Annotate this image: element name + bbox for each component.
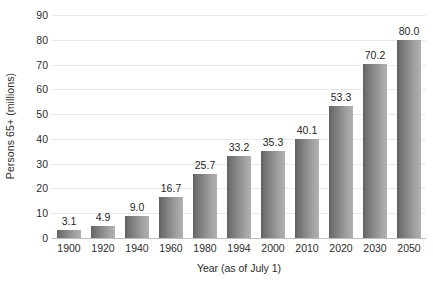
x-axis-tick-label: 2000 [261,242,284,255]
x-axis-tick-label: 2020 [329,242,352,255]
bar [91,226,115,238]
bar [363,64,387,238]
bar [193,174,217,238]
y-axis-tick-label: 50 [20,109,48,119]
y-axis-tick-labels: 0102030405060708090 [20,8,48,240]
x-axis-tick-label: 1900 [57,242,80,255]
y-axis-tick-label: 30 [20,159,48,169]
x-axis-tick-label: 2010 [295,242,318,255]
bar-value-label: 35.3 [263,137,283,148]
bar-group: 40.1 [290,15,324,238]
bar-value-label: 80.0 [399,26,419,37]
bar-group: 16.7 [154,15,188,238]
bar [125,216,149,238]
x-axis-tick-label: 1994 [227,242,250,255]
x-axis-tick-label: 2050 [397,242,420,255]
y-axis-tick-label: 60 [20,84,48,94]
y-axis-title: Persons 65+ (millions) [2,14,18,238]
y-axis-tick-label: 90 [20,10,48,20]
bar-group: 33.2 [222,15,256,238]
x-axis-tick-label: 1960 [159,242,182,255]
bar-value-label: 40.1 [297,125,317,136]
x-axis-tick-label: 1980 [193,242,216,255]
y-axis-tick-label: 70 [20,60,48,70]
bar [397,40,421,238]
plot-area: 3.14.99.016.725.733.235.340.153.370.280.… [52,15,426,238]
bar-value-label: 70.2 [365,50,385,61]
bar-value-label: 53.3 [331,92,351,103]
axis-baseline [52,238,426,239]
bar-value-label: 25.7 [195,160,215,171]
bar-value-label: 4.9 [96,212,111,223]
bar-group: 35.3 [256,15,290,238]
x-axis-title: Year (as of July 1) [52,262,426,274]
y-axis-tick-label: 10 [20,208,48,218]
bar-group: 3.1 [52,15,86,238]
bar [295,139,319,238]
bars-layer: 3.14.99.016.725.733.235.340.153.370.280.… [52,15,426,238]
bar-value-label: 3.1 [62,216,77,227]
bar-value-label: 33.2 [229,142,249,153]
y-axis-tick-label: 20 [20,183,48,193]
x-axis-tick-label: 1920 [91,242,114,255]
y-axis-tick-label: 0 [20,233,48,243]
x-axis-tick-label: 1940 [125,242,148,255]
bar-chart: Persons 65+ (millions) 01020304050607080… [0,0,433,288]
bar-group: 80.0 [392,15,426,238]
bar [329,106,353,238]
x-axis-tick-labels: 1900192019401960198019942000201020202030… [52,242,426,258]
bar [227,156,251,238]
bar-value-label: 9.0 [130,202,145,213]
y-axis-tick-label: 80 [20,35,48,45]
bar [261,151,285,238]
bar [159,197,183,238]
y-axis-tick-label: 40 [20,134,48,144]
bar-group: 4.9 [86,15,120,238]
bar-group: 70.2 [358,15,392,238]
bar-group: 53.3 [324,15,358,238]
bar-group: 9.0 [120,15,154,238]
bar-value-label: 16.7 [161,183,181,194]
bar [57,230,81,238]
bar-group: 25.7 [188,15,222,238]
x-axis-tick-label: 2030 [363,242,386,255]
